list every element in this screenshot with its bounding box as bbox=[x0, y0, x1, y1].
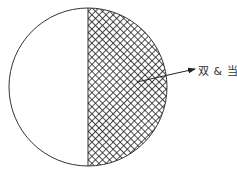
pie-slice-left bbox=[9, 8, 88, 166]
pie-chart-figure: 双 & 当 bbox=[0, 0, 237, 175]
pie-slice-right-hatched bbox=[88, 8, 167, 166]
slice-label: 双 & 当 bbox=[198, 62, 237, 78]
